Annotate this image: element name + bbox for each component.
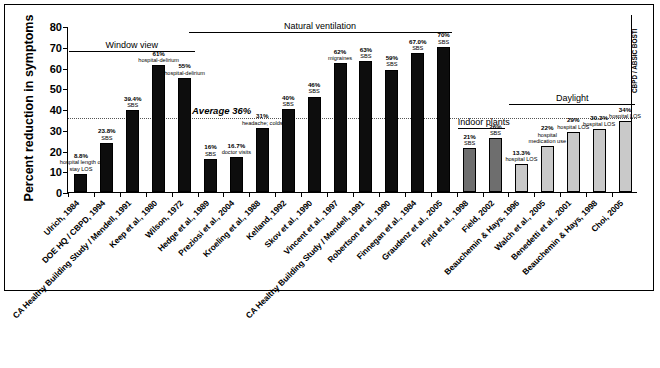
bar-value-label: 13.3%hospital LOS bbox=[498, 149, 544, 163]
bar[interactable] bbox=[256, 128, 269, 192]
group-label: Daylight bbox=[509, 93, 635, 103]
bar[interactable] bbox=[204, 159, 217, 192]
figure-root: Percent reduction in symptoms 0102030405… bbox=[0, 0, 660, 368]
y-tick-label: 30 bbox=[38, 126, 62, 137]
bar-group: 40%SBS bbox=[282, 26, 295, 192]
bar-value-label: 39.4%SBS bbox=[110, 95, 156, 109]
bar-outcome: SBS bbox=[283, 101, 294, 107]
bar-group: 63%SBS bbox=[359, 26, 372, 192]
bar-outcome: hospital-delirium bbox=[164, 70, 205, 76]
bar[interactable] bbox=[437, 47, 450, 192]
bar-percent: 46% bbox=[291, 81, 337, 88]
x-tick-mark bbox=[301, 192, 302, 197]
bar-percent: 23.8% bbox=[84, 127, 130, 134]
y-tick-label: 70 bbox=[38, 43, 62, 54]
group-header-natural-ventilation: Natural ventilation bbox=[189, 19, 452, 33]
bar[interactable] bbox=[385, 70, 398, 192]
bar[interactable] bbox=[489, 138, 502, 192]
bar-group: 22%hospital medication use bbox=[541, 26, 554, 192]
group-header-cbpd-absic-bosti: CBPD / ABSIC BOSTI bbox=[631, 29, 638, 93]
bar-percent: 39.4% bbox=[110, 95, 156, 102]
bar-group: 70%SBS bbox=[437, 26, 450, 192]
bar-outcome: hospital LOS bbox=[583, 121, 615, 127]
bar-percent: 31% bbox=[239, 112, 285, 119]
group-header-indoor-plants: Indoor plants bbox=[458, 115, 506, 129]
y-axis-title: Percent reduction in symptoms bbox=[22, 8, 36, 208]
group-header-daylight: Daylight bbox=[509, 91, 635, 105]
bar[interactable] bbox=[515, 164, 528, 192]
bar-value-label: 34%hospital LOS bbox=[602, 106, 648, 120]
x-tick-mark bbox=[120, 192, 121, 197]
bar-group: 67.0%SBS bbox=[411, 26, 424, 192]
bar-outcome: SBS bbox=[490, 130, 501, 136]
bar-outcome: SBS bbox=[309, 88, 320, 94]
y-tick-label: 40 bbox=[38, 105, 62, 116]
bar-value-label: 23.8%SBS bbox=[84, 127, 130, 141]
x-tick-mark bbox=[483, 192, 484, 197]
bar[interactable] bbox=[178, 78, 191, 192]
group-rule bbox=[189, 32, 452, 33]
bar-percent: 55% bbox=[162, 62, 208, 69]
x-tick-mark bbox=[275, 192, 276, 197]
bar[interactable] bbox=[359, 61, 372, 192]
bar[interactable] bbox=[308, 97, 321, 192]
chart-frame: Percent reduction in symptoms 0102030405… bbox=[4, 4, 654, 291]
x-tick-mark bbox=[146, 192, 147, 197]
x-tick-mark bbox=[198, 192, 199, 197]
bar-value-label: 8.8%hospital length of stay LOS bbox=[58, 152, 104, 173]
bar-group: 34%hospital LOS bbox=[619, 26, 632, 192]
group-rule bbox=[458, 128, 506, 129]
bar-value-label: 70%SBS bbox=[421, 31, 467, 45]
bar[interactable] bbox=[463, 148, 476, 192]
bar-group: 16%SBS bbox=[204, 26, 217, 192]
bar-outcome: headache; colds bbox=[242, 120, 283, 126]
bar-outcome: SBS bbox=[386, 61, 397, 67]
bar-value-label: 59%SBS bbox=[369, 54, 415, 68]
bar-percent: 59% bbox=[369, 54, 415, 61]
x-tick-mark bbox=[172, 192, 173, 197]
bar-percent: 63% bbox=[343, 46, 389, 53]
bar[interactable] bbox=[126, 110, 139, 192]
bar[interactable] bbox=[230, 157, 243, 192]
bar[interactable] bbox=[100, 143, 113, 192]
x-tick-mark bbox=[94, 192, 95, 197]
bar-outcome: hospital LOS bbox=[609, 113, 641, 119]
group-header-window-view: Window view bbox=[69, 38, 195, 52]
x-tick-mark bbox=[508, 192, 509, 197]
bar-value-label: 16.7%doctor visits bbox=[213, 142, 259, 156]
y-tick-label: 80 bbox=[38, 22, 62, 33]
x-tick-mark bbox=[612, 192, 613, 197]
bar[interactable] bbox=[567, 132, 580, 192]
x-tick-mark bbox=[379, 192, 380, 197]
x-tick-mark bbox=[560, 192, 561, 197]
y-tick-label: 50 bbox=[38, 84, 62, 95]
group-rule bbox=[509, 104, 635, 105]
x-tick-mark bbox=[431, 192, 432, 197]
bar-group: 29%hospital LOS bbox=[567, 26, 580, 192]
bar-percent: 13.3% bbox=[498, 149, 544, 156]
bar-outcome: hospital medication use bbox=[528, 132, 566, 145]
bar[interactable] bbox=[541, 146, 554, 192]
bar[interactable] bbox=[152, 65, 165, 192]
bar-group: 31%headache; colds bbox=[256, 26, 269, 192]
bar[interactable] bbox=[619, 121, 632, 192]
bar[interactable] bbox=[593, 129, 606, 192]
bar[interactable] bbox=[74, 174, 87, 192]
x-tick-mark bbox=[68, 192, 69, 197]
x-tick-mark bbox=[249, 192, 250, 197]
x-axis-label: CA Healthy Building Study / Mendell, 199… bbox=[10, 198, 132, 320]
x-tick-mark bbox=[405, 192, 406, 197]
group-label: Indoor plants bbox=[458, 117, 506, 127]
bar-group: 16.7%doctor visits bbox=[230, 26, 243, 192]
group-label: Natural ventilation bbox=[189, 21, 452, 31]
x-tick-mark bbox=[353, 192, 354, 197]
bar-value-label: 31%headache; colds bbox=[239, 112, 285, 126]
bar[interactable] bbox=[334, 63, 347, 192]
bar-group: 13.3%hospital LOS bbox=[515, 26, 528, 192]
bar[interactable] bbox=[411, 53, 424, 192]
group-rule bbox=[69, 51, 195, 52]
bar-group: 26%SBS bbox=[489, 26, 502, 192]
bar-outcome: SBS bbox=[412, 45, 423, 51]
bar[interactable] bbox=[282, 109, 295, 192]
bar-outcome: SBS bbox=[127, 102, 138, 108]
